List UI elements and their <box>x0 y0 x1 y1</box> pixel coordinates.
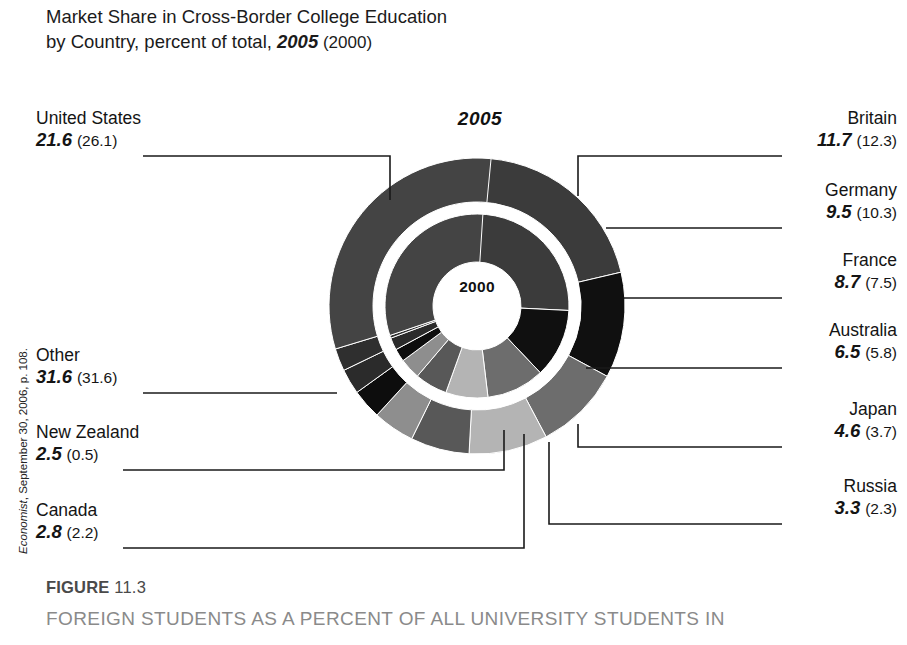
callout-japan-value: 4.6 (3.7) <box>835 420 897 443</box>
figure-number: 11.3 <box>114 578 146 596</box>
callout-france-v2005: 8.7 <box>835 271 861 292</box>
inner-ring-label: 2000 <box>412 278 542 296</box>
callout-new-zealand-v2000: (0.5) <box>67 446 99 463</box>
chart-title-line2-prefix: by Country, percent of total, <box>46 31 277 52</box>
callout-new-zealand-name: New Zealand <box>36 422 139 443</box>
callout-other-name: Other <box>36 345 117 366</box>
outer-ring-label: 2005 <box>400 108 560 130</box>
callout-new-zealand: New Zealand 2.5 (0.5) <box>36 422 139 466</box>
callout-russia-value: 3.3 (2.3) <box>835 497 897 520</box>
callout-new-zealand-value: 2.5 (0.5) <box>36 443 139 466</box>
callout-japan-v2000: (3.7) <box>865 423 897 440</box>
callout-britain-v2000: (12.3) <box>857 132 898 149</box>
figure-label: FIGURE 11.3 <box>46 578 146 597</box>
callout-germany-v2000: (10.3) <box>857 204 898 221</box>
callout-canada-v2005: 2.8 <box>36 521 62 542</box>
source-note: Economist, September 30, 2006, p. 108. <box>17 336 29 566</box>
callout-russia-v2000: (2.3) <box>865 500 897 517</box>
callout-britain-name: Britain <box>817 108 897 129</box>
callout-united-states-v2000: (26.1) <box>77 132 118 149</box>
callout-united-states-value: 21.6 (26.1) <box>36 129 141 152</box>
callout-other-v2000: (31.6) <box>77 369 118 386</box>
callout-other: Other 31.6 (31.6) <box>36 345 117 389</box>
callout-canada-name: Canada <box>36 500 98 521</box>
callout-germany-name: Germany <box>825 180 897 201</box>
callout-russia-name: Russia <box>835 476 897 497</box>
callout-other-v2005: 31.6 <box>36 366 72 387</box>
chart-title: Market Share in Cross-Border College Edu… <box>46 4 686 55</box>
callout-france: France 8.7 (7.5) <box>835 250 897 294</box>
donut-chart <box>310 128 650 473</box>
callout-france-name: France <box>835 250 897 271</box>
figure-caption: FOREIGN STUDENTS AS A PERCENT OF ALL UNI… <box>46 608 725 630</box>
callout-france-value: 8.7 (7.5) <box>835 271 897 294</box>
figure-root: Market Share in Cross-Border College Edu… <box>0 0 907 645</box>
callout-united-states-name: United States <box>36 108 141 129</box>
callout-britain-value: 11.7 (12.3) <box>817 129 897 152</box>
callout-germany-value: 9.5 (10.3) <box>825 201 897 224</box>
callout-australia-name: Australia <box>829 320 897 341</box>
callout-new-zealand-v2005: 2.5 <box>36 443 62 464</box>
source-detail: , September 30, 2006, p. 108. <box>17 348 29 500</box>
source-publication: Economist <box>17 500 29 554</box>
callout-australia-v2000: (5.8) <box>865 344 897 361</box>
callout-russia: Russia 3.3 (2.3) <box>835 476 897 520</box>
chart-title-line1: Market Share in Cross-Border College Edu… <box>46 6 447 27</box>
callout-germany: Germany 9.5 (10.3) <box>825 180 897 224</box>
callout-britain: Britain 11.7 (12.3) <box>817 108 897 152</box>
callout-russia-v2005: 3.3 <box>835 497 861 518</box>
chart-title-year-2000: (2000) <box>318 33 372 52</box>
callout-japan-name: Japan <box>835 399 897 420</box>
callout-canada-value: 2.8 (2.2) <box>36 521 98 544</box>
callout-france-v2000: (7.5) <box>865 274 897 291</box>
callout-united-states-v2005: 21.6 <box>36 129 72 150</box>
callout-japan: Japan 4.6 (3.7) <box>835 399 897 443</box>
callout-germany-v2005: 9.5 <box>826 201 852 222</box>
callout-united-states: United States 21.6 (26.1) <box>36 108 141 152</box>
callout-australia: Australia 6.5 (5.8) <box>829 320 897 364</box>
donut-chart-svg <box>310 128 650 473</box>
callout-britain-v2005: 11.7 <box>817 129 852 150</box>
callout-japan-v2005: 4.6 <box>835 420 861 441</box>
callout-canada: Canada 2.8 (2.2) <box>36 500 98 544</box>
callout-australia-value: 6.5 (5.8) <box>829 341 897 364</box>
callout-other-value: 31.6 (31.6) <box>36 366 117 389</box>
chart-title-year-2005: 2005 <box>277 31 318 52</box>
callout-australia-v2005: 6.5 <box>835 341 861 362</box>
callout-canada-v2000: (2.2) <box>67 524 99 541</box>
figure-label-word: FIGURE <box>46 578 110 596</box>
